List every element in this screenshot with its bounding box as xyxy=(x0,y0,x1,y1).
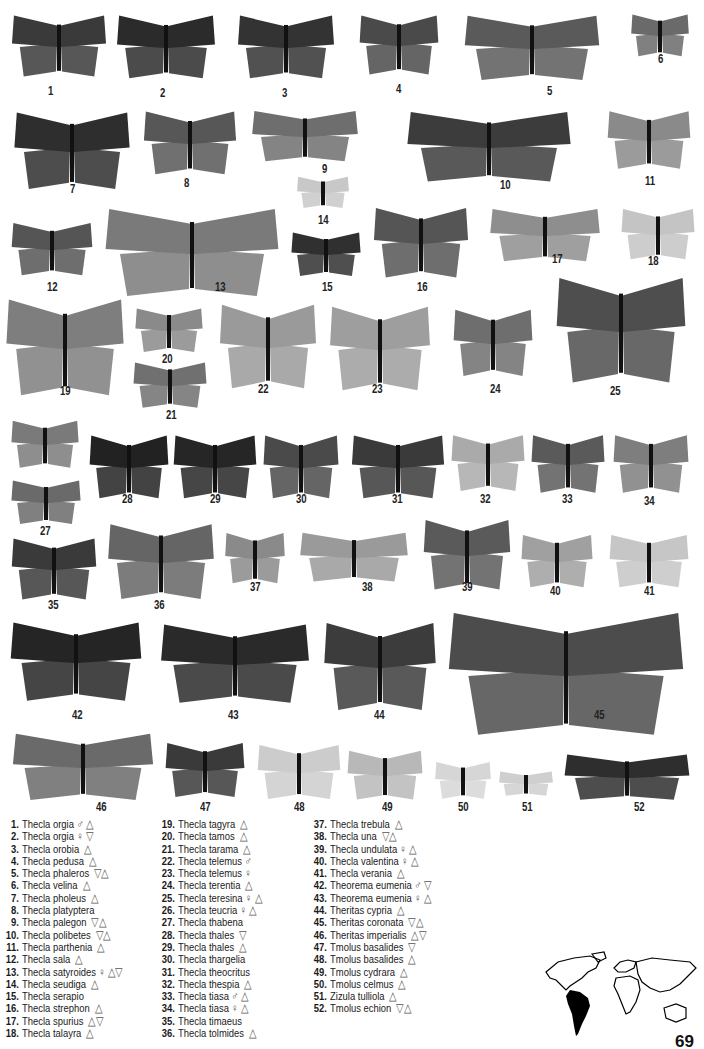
legend-item: 29.Thecla thales△ xyxy=(160,941,262,953)
legend-number: 34. xyxy=(160,1002,175,1014)
legend-item: 50.Tmolus celmus△ xyxy=(312,978,431,990)
view-triangle-icon: ▽△ xyxy=(396,1002,411,1014)
species-name: Thecla pedusa xyxy=(22,855,84,867)
butterfly-icon xyxy=(488,206,602,266)
legend-number: 43. xyxy=(312,892,327,904)
legend-number: 31. xyxy=(160,966,175,978)
species-name: Thecla teresina xyxy=(178,892,242,904)
view-triangle-icon: △ xyxy=(249,904,256,916)
sex-symbol-icon: ♂ xyxy=(414,879,421,891)
legend-number: 46. xyxy=(312,929,327,941)
butterfly-specimen-50 xyxy=(434,760,492,802)
species-name: Tmolus echion xyxy=(330,1002,391,1014)
specimen-number-label: 15 xyxy=(322,280,333,294)
legend-number: 52. xyxy=(312,1002,327,1014)
legend-number: 15. xyxy=(4,990,19,1002)
butterfly-specimen-4 xyxy=(358,12,440,80)
legend-item: 7.Thecla pholeus△ xyxy=(4,892,123,904)
species-name: Tmolus cydrara xyxy=(330,966,395,978)
view-triangle-icon: △ xyxy=(395,818,402,830)
sex-symbol-icon: ♀ xyxy=(231,1002,238,1014)
specimen-number-label: 2 xyxy=(160,86,165,100)
butterfly-icon xyxy=(10,478,82,528)
butterfly-specimen-41 xyxy=(608,532,690,592)
species-name: Thecla thargelia xyxy=(178,953,245,965)
species-name: Thecla tagyra xyxy=(178,818,235,830)
legend-number: 41. xyxy=(312,867,327,879)
legend-item: 35.Thecla timaeus xyxy=(160,1015,262,1027)
view-triangle-icon: ▽△ xyxy=(91,916,106,928)
butterfly-specimen-24 xyxy=(452,306,534,382)
species-name: Thecla sala xyxy=(22,953,70,965)
butterfly-specimen-3 xyxy=(236,12,336,84)
legend-item: 39.Thecla undulata♀△ xyxy=(312,843,431,855)
species-name: Thecla orobia xyxy=(22,843,79,855)
specimen-number-label: 48 xyxy=(294,800,305,814)
butterfly-specimen-42 xyxy=(8,618,144,708)
legend-number: 18. xyxy=(4,1027,19,1039)
legend-number: 12. xyxy=(4,953,19,965)
view-triangle-icon: △ xyxy=(86,818,93,830)
view-triangle-icon: △ xyxy=(91,892,98,904)
butterfly-icon xyxy=(158,620,312,710)
view-triangle-icon: △ xyxy=(86,1027,93,1039)
view-triangle-icon: △ xyxy=(408,953,415,965)
view-triangle-icon: ▽△ xyxy=(96,929,111,941)
species-name: Zizula tulliola xyxy=(330,990,385,1002)
specimen-number-label: 45 xyxy=(594,708,605,722)
legend-item: 24.Thecla terentia△ xyxy=(160,879,262,891)
legend-number: 7. xyxy=(4,892,19,904)
specimen-number-label: 31 xyxy=(392,492,403,506)
legend-item: 49.Tmolus cydrara△ xyxy=(312,966,431,978)
legend-item: 36.Thecla tolmides△ xyxy=(160,1027,262,1039)
view-triangle-icon: △ xyxy=(397,867,404,879)
legend-item: 25.Thecla teresina♀△ xyxy=(160,892,262,904)
legend-number: 44. xyxy=(312,904,327,916)
butterfly-icon xyxy=(10,12,108,82)
view-triangle-icon: △ xyxy=(83,879,90,891)
butterfly-icon xyxy=(444,606,688,746)
specimen-number-label: 41 xyxy=(644,584,655,598)
legend-item: 11.Thecla parthenia△ xyxy=(4,941,123,953)
legend-item: 47.Tmolus basalides▽ xyxy=(312,941,431,953)
view-triangle-icon: ▽ xyxy=(408,941,415,953)
specimen-number-label: 24 xyxy=(490,382,501,396)
specimen-number-label: 4 xyxy=(396,82,401,96)
butterfly-icon xyxy=(106,520,216,606)
view-triangle-icon: △ xyxy=(84,843,91,855)
specimen-number-label: 51 xyxy=(522,800,533,814)
sex-symbol-icon: ♀ xyxy=(414,892,421,904)
species-name: Thecla tolmides xyxy=(178,1027,244,1039)
butterfly-icon xyxy=(296,175,350,211)
legend-number: 28. xyxy=(160,929,175,941)
specimen-number-label: 40 xyxy=(550,584,561,598)
sex-symbol-icon: ♀ xyxy=(76,830,83,842)
view-triangle-icon: △ xyxy=(97,941,104,953)
specimen-number-label: 28 xyxy=(122,492,133,506)
legend-item: 2.Thecla orgia♀▽ xyxy=(4,830,123,842)
view-triangle-icon: ▽△ xyxy=(382,830,397,842)
butterfly-specimen-38 xyxy=(298,530,410,586)
legend-number: 1. xyxy=(4,818,19,830)
view-triangle-icon: △ xyxy=(243,843,250,855)
specimen-number-label: 3 xyxy=(282,86,287,100)
specimen-number-label: 37 xyxy=(250,580,261,594)
legend-item: 27.Thecla thabena xyxy=(160,916,262,928)
view-triangle-icon: △ xyxy=(239,941,246,953)
sex-symbol-icon: ♀ xyxy=(240,904,247,916)
legend-number: 47. xyxy=(312,941,327,953)
specimen-number-label: 8 xyxy=(184,176,189,190)
butterfly-specimen-15 xyxy=(290,230,362,280)
specimen-number-label: 44 xyxy=(374,708,385,722)
butterfly-icon xyxy=(10,418,80,472)
butterfly-specimen-36 xyxy=(106,520,216,606)
legend-item: 33.Thecla tiasa♂△ xyxy=(160,990,262,1002)
legend-column-2: 19.Thecla tagyra△20.Thecla tamos△21.Thec… xyxy=(160,818,284,1039)
butterfly-specimen-2 xyxy=(115,12,217,84)
specimen-number-label: 29 xyxy=(210,492,221,506)
specimen-number-label: 11 xyxy=(645,174,655,188)
butterfly-specimen-17 xyxy=(488,206,602,266)
butterfly-icon xyxy=(372,204,470,284)
sex-symbol-icon: ♂ xyxy=(231,990,238,1002)
butterfly-specimen-48 xyxy=(256,742,342,804)
